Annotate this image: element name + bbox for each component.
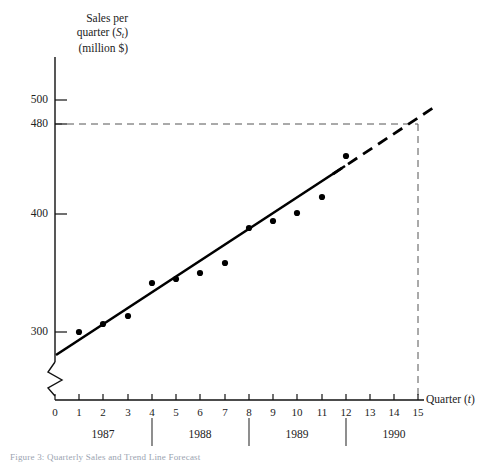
- data-point-q2: [100, 321, 106, 327]
- data-point-q9: [270, 218, 276, 224]
- trend-line-dashed-forecast: [333, 106, 436, 174]
- figure-caption: Figure 3: Quarterly Sales and Trend Line…: [10, 452, 201, 462]
- y-axis-break-icon: [48, 362, 62, 396]
- chart-plot-area: [0, 0, 484, 462]
- chart-figure: Sales per quarter (St) (million $) Quart…: [0, 0, 484, 462]
- data-point-q10: [294, 210, 300, 216]
- data-point-q7: [222, 260, 228, 266]
- data-point-q11: [319, 194, 325, 200]
- data-point-q12: [343, 153, 349, 159]
- data-point-q5: [173, 276, 179, 282]
- data-point-group: [76, 153, 349, 335]
- data-point-q3: [125, 313, 131, 319]
- trend-line-solid: [56, 166, 345, 355]
- period-divider-marks: [152, 418, 346, 446]
- data-point-q1: [76, 329, 82, 335]
- data-point-q4: [149, 280, 155, 286]
- data-point-q8: [246, 225, 252, 231]
- x-tick-marks: [55, 394, 418, 400]
- data-point-q6: [197, 270, 203, 276]
